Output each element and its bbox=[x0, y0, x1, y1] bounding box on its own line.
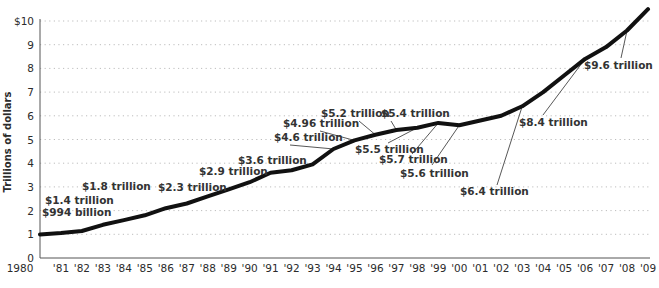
x-tick-label: '99 bbox=[430, 262, 446, 274]
x-tick-label: '03 bbox=[514, 262, 530, 274]
annotation-label: $3.6 trillion bbox=[238, 154, 307, 166]
x-tick-label: '96 bbox=[367, 262, 384, 274]
x-tick-label: '08 bbox=[619, 262, 635, 274]
x-tick-label: '97 bbox=[388, 262, 404, 274]
y-tick-label: 3 bbox=[27, 181, 34, 193]
x-tick-label: '98 bbox=[409, 262, 425, 274]
y-tick-label: 6 bbox=[27, 110, 34, 122]
annotation-label: $994 billion bbox=[42, 206, 111, 218]
y-tick-label: 4 bbox=[27, 157, 34, 169]
annotation-label: $5.7 trillion bbox=[379, 153, 448, 165]
y-tick-label: 9 bbox=[27, 39, 34, 51]
y-tick-label: 8 bbox=[27, 62, 34, 74]
x-tick-label: '05 bbox=[556, 262, 572, 274]
y-tick-label: 7 bbox=[27, 86, 34, 98]
x-tick-label: '90 bbox=[242, 262, 258, 274]
x-tick-label: '02 bbox=[493, 262, 509, 274]
y-tick-label: 1 bbox=[27, 228, 34, 240]
x-tick-label: '93 bbox=[304, 262, 320, 274]
x-tick-label: '86 bbox=[158, 262, 175, 274]
chart-canvas: 0123456789$10 1980'81'82'83'84'85'86'87'… bbox=[0, 0, 659, 288]
annotation-label: $8.4 trillion bbox=[519, 116, 588, 128]
x-tick-label: '95 bbox=[346, 262, 362, 274]
x-tick-label: '94 bbox=[325, 262, 342, 274]
annotation-label: $1.8 trillion bbox=[82, 180, 151, 192]
x-tick-label: '82 bbox=[74, 262, 90, 274]
x-tick-label: '06 bbox=[577, 262, 594, 274]
annotation-label: $4.6 trillion bbox=[274, 131, 343, 143]
annotation-label: $5.4 trillion bbox=[381, 107, 450, 119]
y-tick-label: 2 bbox=[27, 205, 34, 217]
x-tick-label: '04 bbox=[535, 262, 552, 274]
annotation-label: $6.4 trillion bbox=[460, 185, 529, 197]
annotation-label: $5.6 trillion bbox=[400, 167, 469, 179]
annotation-label: $2.9 trillion bbox=[199, 165, 268, 177]
x-tick-label: '85 bbox=[137, 262, 153, 274]
annotation-label: $5.2 trillion bbox=[321, 107, 390, 119]
x-tick-label: '00 bbox=[451, 262, 467, 274]
x-axis-ticks: 1980'81'82'83'84'85'86'87'88'89'90'91'92… bbox=[7, 262, 656, 274]
annotation-leader bbox=[290, 145, 334, 149]
x-tick-label: 1980 bbox=[7, 262, 34, 274]
annotation-label: $1.4 trillion bbox=[45, 194, 114, 206]
x-tick-label: '09 bbox=[640, 262, 656, 274]
x-tick-label: '88 bbox=[200, 262, 216, 274]
annotation-label: $9.6 trillion bbox=[584, 59, 653, 71]
y-axis-ticks: 0123456789$10 bbox=[14, 15, 34, 264]
y-tick-label: $10 bbox=[14, 15, 34, 27]
y-axis-label: Trillions of dollars bbox=[2, 91, 13, 192]
x-tick-label: '84 bbox=[116, 262, 133, 274]
x-tick-label: '81 bbox=[53, 262, 69, 274]
x-tick-label: '87 bbox=[179, 262, 195, 274]
x-tick-label: '07 bbox=[598, 262, 614, 274]
x-tick-label: '91 bbox=[262, 262, 278, 274]
x-tick-label: '01 bbox=[472, 262, 488, 274]
annotation-leader bbox=[359, 121, 375, 135]
x-tick-label: '83 bbox=[95, 262, 111, 274]
x-tick-label: '92 bbox=[283, 262, 299, 274]
y-tick-label: 5 bbox=[27, 134, 34, 146]
x-tick-label: '89 bbox=[221, 262, 237, 274]
annotation-label: $2.3 trillion bbox=[158, 181, 227, 193]
debt-line-chart: 0123456789$10 1980'81'82'83'84'85'86'87'… bbox=[0, 0, 659, 288]
